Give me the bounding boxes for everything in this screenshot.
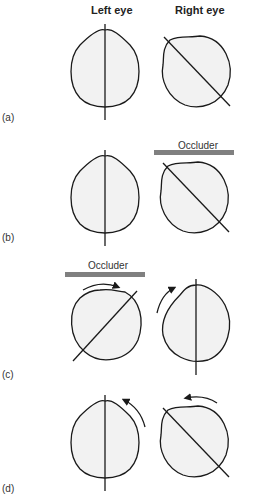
rotation-arrow-left-c [83,284,118,290]
panel-c [65,272,230,375]
left-eye-b [71,150,139,246]
panel-b [71,150,234,246]
right-eye-c [162,279,229,375]
occluder-bar-b [154,150,234,155]
left-eye-c [72,289,142,361]
right-eye-d [160,406,229,477]
panel-a [71,24,230,120]
rotation-arrow-right-d [186,397,217,403]
occluder-bar-c [65,272,145,277]
right-eye-a [162,36,230,107]
panel-d [71,395,229,491]
right-eye-b [160,162,229,233]
left-eye-d [71,395,139,491]
left-eye-a [71,24,139,120]
